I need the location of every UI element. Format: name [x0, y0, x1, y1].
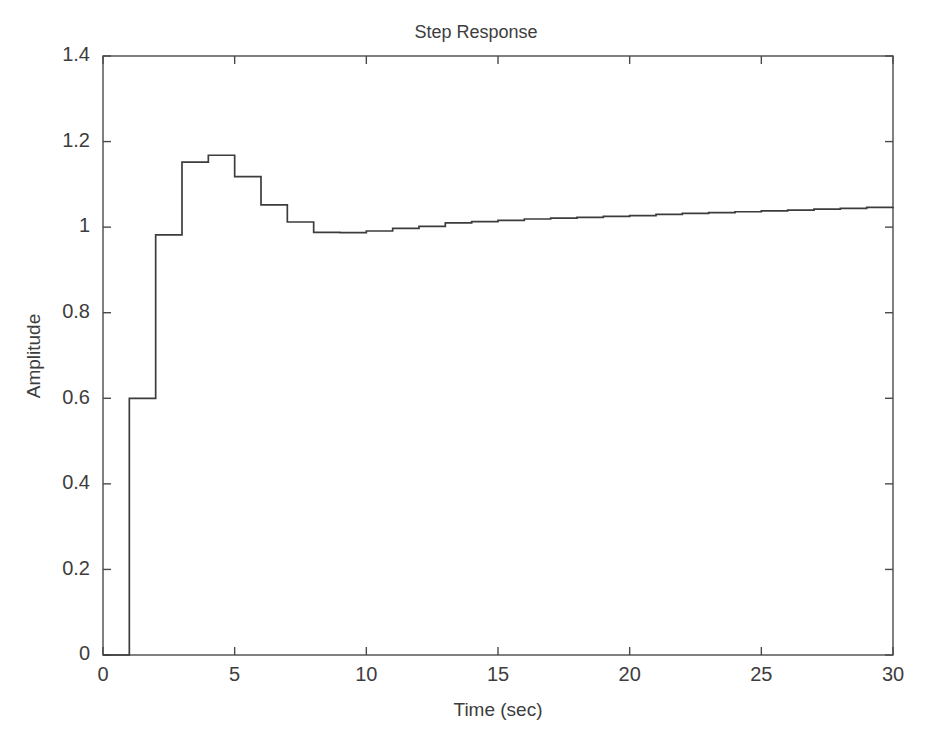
y-tick-label: 1.4 [62, 43, 90, 65]
y-tick-label: 1 [79, 214, 90, 236]
x-tick-label: 0 [97, 663, 108, 685]
plot-canvas: Step Response 00.20.40.60.811.21.4 05101… [0, 0, 946, 747]
y-axis-label: Amplitude [23, 314, 44, 399]
y-tick-label: 0 [79, 642, 90, 664]
y-tick-label: 1.2 [62, 129, 90, 151]
x-tick-label: 10 [355, 663, 377, 685]
x-tick-label: 15 [487, 663, 509, 685]
y-tick-label: 0.2 [62, 557, 90, 579]
x-tick-label: 20 [619, 663, 641, 685]
x-axis-label: Time (sec) [453, 699, 542, 720]
y-tick-label: 0.6 [62, 386, 90, 408]
step-response-figure: Step Response 00.20.40.60.811.21.4 05101… [0, 0, 946, 747]
x-tick-label: 25 [750, 663, 772, 685]
x-tick-label: 30 [882, 663, 904, 685]
page-title: Step Response [414, 22, 537, 42]
y-tick-label: 0.8 [62, 300, 90, 322]
figure-background [0, 0, 946, 747]
y-tick-label: 0.4 [62, 471, 90, 493]
x-tick-label: 5 [229, 663, 240, 685]
